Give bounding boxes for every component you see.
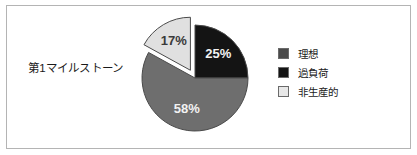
- legend-swatch-icon: [278, 67, 289, 78]
- legend-item-label: 理想: [298, 48, 318, 60]
- legend-item-label: 過負荷: [298, 67, 328, 79]
- category-label: 第1マイルストーン: [28, 61, 148, 75]
- legend-swatch-icon: [278, 48, 289, 59]
- pie-chart-figure: 第1マイルストーン 25%58%17% 理想 過負荷 非生産的: [0, 0, 417, 155]
- pie-chart-plot: 25%58%17%: [132, 14, 262, 142]
- legend-swatch-icon: [278, 86, 289, 97]
- pie-slice-value-label: 58%: [174, 101, 200, 116]
- legend-item-label: 非生産的: [298, 86, 338, 98]
- pie-svg: 25%58%17%: [132, 14, 262, 142]
- pie-slice-value-label: 25%: [205, 46, 231, 61]
- legend-item[interactable]: 非生産的: [278, 82, 398, 101]
- legend-item[interactable]: 理想: [278, 44, 398, 63]
- legend-item[interactable]: 過負荷: [278, 63, 398, 82]
- pie-slice-value-label: 17%: [161, 33, 187, 48]
- chart-legend: 理想 過負荷 非生産的: [278, 44, 398, 101]
